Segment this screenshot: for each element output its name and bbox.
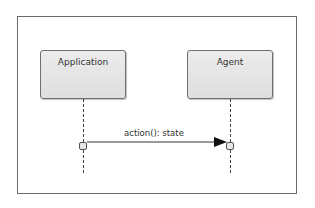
message-arrow — [0, 0, 315, 208]
message-label: action(): state — [124, 128, 184, 138]
activation-application[interactable] — [79, 142, 87, 150]
activation-agent[interactable] — [226, 142, 234, 150]
